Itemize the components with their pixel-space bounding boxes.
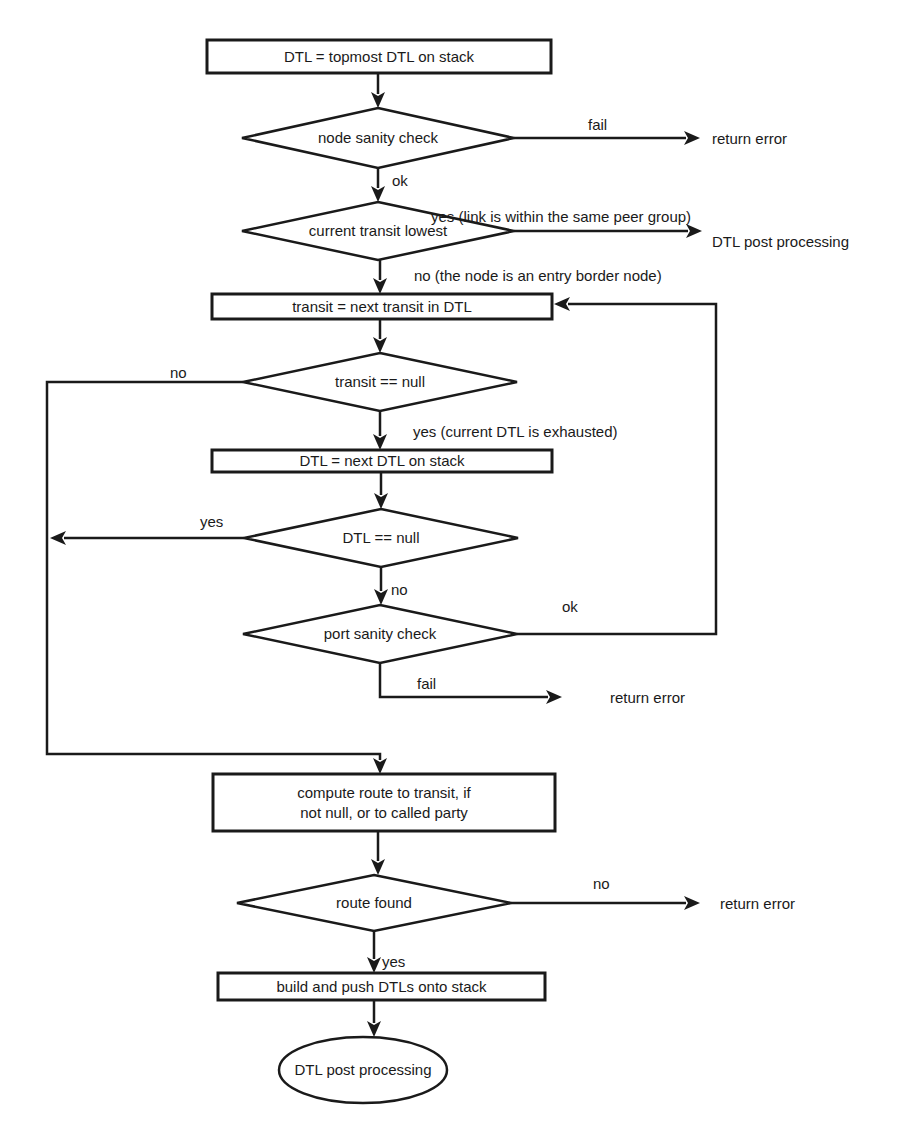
node-label: node sanity check xyxy=(318,129,439,146)
node-build-push: build and push DTLs onto stack xyxy=(218,973,545,1000)
edge-e2 xyxy=(514,131,700,145)
node-label: transit = next transit in DTL xyxy=(292,298,472,315)
edge-e5 xyxy=(373,260,387,294)
edge-label-lbl-no-dtl: no xyxy=(391,581,408,598)
arrowhead-icon xyxy=(50,531,66,545)
arrowhead-icon xyxy=(684,131,700,145)
edge-label-lbl-yes-route: yes xyxy=(382,953,405,970)
edge-e12 xyxy=(380,663,562,704)
edge-e8 xyxy=(374,472,388,509)
node-label: not null, or to called party xyxy=(300,804,468,821)
edge-e9 xyxy=(50,531,244,545)
node-route-found: route found xyxy=(237,875,511,931)
node-label: DTL post processing xyxy=(294,1061,431,1078)
arrowhead-icon xyxy=(371,186,385,202)
edge-e17 xyxy=(367,1000,381,1037)
node-post-processing: DTL post processing xyxy=(279,1037,447,1103)
edge-e13 xyxy=(47,382,387,774)
edge-label-lbl-yes-dtl: yes xyxy=(200,513,223,530)
edge-label-lbl-ok1: ok xyxy=(392,172,408,189)
node-start: DTL = topmost DTL on stack xyxy=(207,40,551,73)
node-label: current transit lowest xyxy=(309,222,448,239)
arrowhead-icon xyxy=(371,92,385,108)
arrowhead-icon xyxy=(373,337,387,353)
edge-label-lbl-yes-exhausted: yes (current DTL is exhausted) xyxy=(413,423,618,440)
arrowhead-icon xyxy=(371,859,385,875)
edge-e4 xyxy=(514,224,702,238)
node-node-sanity: node sanity check xyxy=(242,108,514,168)
edge-label-lbl-fail1: fail xyxy=(588,116,607,133)
node-label: DTL == null xyxy=(343,529,420,546)
node-next-dtl: DTL = next DTL on stack xyxy=(212,450,552,472)
arrowhead-icon xyxy=(373,758,387,774)
edge-e1 xyxy=(371,73,385,108)
edge-label-lbl-ok-port: ok xyxy=(562,598,578,615)
connector-line xyxy=(380,663,548,697)
arrowhead-icon xyxy=(373,434,387,450)
arrowhead-icon xyxy=(686,224,702,238)
node-compute-route: compute route to transit, ifnot null, or… xyxy=(213,774,555,831)
node-label: compute route to transit, if xyxy=(297,784,471,801)
edge-e3 xyxy=(371,168,385,202)
node-label: DTL = topmost DTL on stack xyxy=(284,48,475,65)
edge-e14 xyxy=(371,831,385,875)
edge-label-lbl-fail-port: fail xyxy=(417,675,436,692)
node-dtl-null: DTL == null xyxy=(244,509,518,567)
connector-line xyxy=(47,382,380,760)
node-port-sanity: port sanity check xyxy=(243,605,517,663)
edge-e7 xyxy=(373,411,387,450)
outcome-post1: DTL post processing xyxy=(712,233,849,250)
edge-label-lbl-no-entry: no (the node is an entry border node) xyxy=(414,267,662,284)
edge-e16 xyxy=(367,931,381,973)
node-transit-null: transit == null xyxy=(243,353,517,411)
arrowhead-icon xyxy=(367,1021,381,1037)
edge-label-lbl-no-route: no xyxy=(593,875,610,892)
edge-e15 xyxy=(511,896,700,910)
flowchart-canvas: DTL = topmost DTL on stacknode sanity ch… xyxy=(0,0,914,1146)
arrowhead-icon xyxy=(546,690,562,704)
arrowhead-icon xyxy=(374,493,388,509)
edge-label-lbl-no-transit: no xyxy=(170,364,187,381)
edge-e6 xyxy=(373,319,387,353)
arrowhead-icon xyxy=(684,896,700,910)
arrowhead-icon xyxy=(554,297,570,311)
node-next-transit: transit = next transit in DTL xyxy=(212,294,552,319)
node-label: port sanity check xyxy=(324,625,437,642)
edge-label-lbl-yes-peer: yes (link is within the same peer group) xyxy=(431,208,691,225)
arrowhead-icon xyxy=(367,957,381,973)
outcome-err3: return error xyxy=(720,895,795,912)
edge-e10 xyxy=(374,567,388,605)
arrowhead-icon xyxy=(374,589,388,605)
outcome-err1: return error xyxy=(712,130,787,147)
node-label: build and push DTLs onto stack xyxy=(276,978,487,995)
outcome-err2: return error xyxy=(610,689,685,706)
node-label: route found xyxy=(336,894,412,911)
arrowhead-icon xyxy=(373,278,387,294)
node-label: transit == null xyxy=(335,373,425,390)
node-label: DTL = next DTL on stack xyxy=(299,452,465,469)
